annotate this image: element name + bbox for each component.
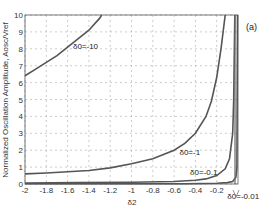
curve-δ0=-0.1	[25, 15, 235, 183]
y-tick: 4	[19, 112, 24, 121]
x-tick: -1	[128, 186, 136, 195]
x-tick: -1.6	[61, 186, 75, 195]
x-axis-label: δ2	[128, 198, 137, 207]
y-tick: 7	[19, 62, 24, 71]
x-tick: -0.8	[146, 186, 160, 195]
annotation: δ0=-0.1	[190, 168, 218, 177]
chart: -2-1.8-1.6-1.4-1.2-1-0.8-0.6-0.4-0.2 012…	[0, 0, 267, 216]
y-tick: 8	[19, 45, 24, 54]
y-axis-label: Normalized Oscillation Amplitude, Aosc/V…	[1, 22, 10, 178]
x-tick: -0.4	[189, 186, 203, 195]
x-tick: -1.2	[103, 186, 117, 195]
y-tick: 1	[19, 163, 24, 172]
y-tick: 9	[19, 28, 24, 37]
panel-label: (a)	[246, 22, 257, 32]
grid-lines	[25, 15, 238, 184]
y-tick: 10	[14, 11, 23, 20]
x-tick: -1.8	[39, 186, 53, 195]
y-tick: 6	[19, 79, 24, 88]
y-tick-labels: 012345678910	[14, 11, 23, 189]
annotation: δ0=-0.01	[227, 192, 259, 201]
x-tick: -1.4	[82, 186, 96, 195]
y-tick: 5	[19, 96, 24, 105]
x-tick-labels: -2-1.8-1.6-1.4-1.2-1-0.8-0.6-0.4-0.2	[21, 186, 224, 195]
annotation: δ0=-1	[179, 148, 200, 157]
y-tick: 3	[19, 129, 24, 138]
y-tick: 0	[19, 180, 24, 189]
annotation: δ0=-10	[73, 42, 99, 51]
y-tick: 2	[19, 146, 24, 155]
x-tick: -0.2	[210, 186, 224, 195]
x-tick: -0.6	[167, 186, 181, 195]
